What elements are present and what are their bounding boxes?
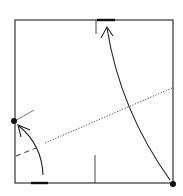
origami-diagram — [0, 0, 183, 196]
square-paper — [15, 20, 173, 183]
reference-point-bottom-right — [170, 181, 176, 187]
reference-point-left — [11, 118, 17, 124]
